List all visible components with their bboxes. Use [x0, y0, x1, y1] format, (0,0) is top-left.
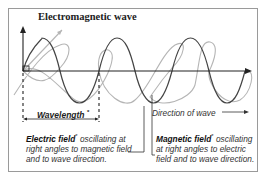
magnetic-field-label: Magnetic field* oscillating at right ang…	[156, 131, 258, 164]
electric-field-label: Electric field* oscillating at right ang…	[26, 131, 138, 164]
wavelength-label: Wavelength *	[37, 107, 89, 120]
wavelength-marker: *	[87, 109, 89, 115]
electric-field-term: Electric field	[26, 134, 75, 144]
magnetic-field-term: Magnetic field	[156, 134, 211, 144]
y-axis-arrow-icon	[20, 26, 26, 33]
diagram-title: Electromagnetic wave	[38, 11, 137, 22]
wavelength-text: Wavelength	[37, 110, 85, 120]
magnetic-wave	[14, 42, 252, 103]
direction-arrow-icon	[244, 110, 249, 114]
direction-label: Direction of wave	[152, 108, 216, 118]
